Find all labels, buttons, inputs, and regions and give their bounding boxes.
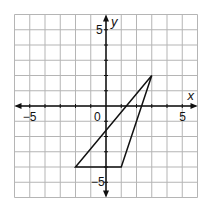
axes bbox=[15, 15, 198, 198]
x-tick-label-neg5: −5 bbox=[23, 110, 37, 124]
coordinate-plane: x y 0 −5 5 5 −5 bbox=[0, 0, 208, 216]
x-axis-label: x bbox=[187, 88, 195, 103]
y-tick-label-5: 5 bbox=[96, 23, 103, 37]
x-tick-label-5: 5 bbox=[179, 110, 186, 124]
y-axis-label: y bbox=[110, 14, 119, 29]
y-tick-label-neg5: −5 bbox=[91, 175, 105, 189]
origin-label: 0 bbox=[94, 110, 101, 124]
